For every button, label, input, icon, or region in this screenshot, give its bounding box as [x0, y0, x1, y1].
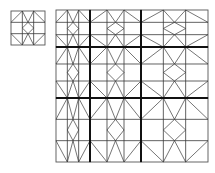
motif-segment: [124, 47, 141, 64]
motif-segment: [116, 35, 125, 47]
tile-frame: [141, 10, 208, 47]
scaled-tiling-grid: [56, 10, 208, 162]
motif-segment: [28, 28, 34, 34]
tile-frame: [56, 47, 90, 98]
motif-segment: [73, 29, 79, 35]
motif-segment: [163, 98, 174, 119]
motif-segment: [107, 81, 116, 98]
tile-frame: [90, 10, 141, 47]
motif-segment: [186, 10, 208, 22]
motif-segment: [175, 64, 186, 73]
motif-segment: [67, 29, 73, 35]
motif-segment: [11, 34, 22, 45]
motif-segment: [175, 130, 186, 141]
motif-segment: [67, 81, 73, 98]
motif-segment: [73, 10, 79, 22]
motif-segment: [11, 11, 22, 22]
motif-segment: [116, 64, 125, 73]
motif-segment: [141, 81, 163, 98]
motif-segment: [90, 35, 107, 47]
motif-segment: [73, 47, 79, 64]
motif-segment: [124, 98, 141, 119]
tiling-diagram: [0, 0, 215, 173]
motif-segment: [56, 141, 67, 162]
motif-segment: [163, 81, 174, 98]
motif-segment: [28, 11, 34, 22]
tile-frame: [141, 47, 208, 98]
motif-segment: [175, 98, 186, 119]
motif-segment: [107, 47, 116, 64]
motif-segment: [116, 47, 125, 64]
motif-segment: [141, 141, 163, 162]
motif-segment: [163, 29, 174, 35]
motif-segment: [22, 34, 28, 45]
motif-segment: [175, 119, 186, 130]
motif-segment: [34, 34, 45, 45]
motif-segment: [79, 10, 90, 22]
motif-segment: [124, 81, 141, 98]
motif-segment: [67, 47, 73, 64]
motif-segment: [116, 81, 125, 98]
motif-segment: [73, 81, 79, 98]
motif-segment: [163, 130, 174, 141]
motif-segment: [67, 35, 73, 47]
base-tile: [11, 11, 45, 45]
tile-frame: [11, 11, 45, 45]
motif-segment: [116, 130, 125, 141]
motif-segment: [163, 141, 174, 162]
tile-frame: [56, 98, 90, 162]
motif-segment: [90, 141, 107, 162]
motif-segment: [163, 119, 174, 130]
motif-segment: [163, 10, 174, 22]
motif-segment: [175, 29, 186, 35]
motif-segment: [163, 35, 174, 47]
motif-segment: [116, 29, 125, 35]
motif-segment: [116, 119, 125, 130]
tile-frame: [90, 98, 141, 162]
motif-segment: [175, 73, 186, 82]
motif-segment: [186, 98, 208, 119]
motif-segment: [107, 73, 116, 82]
motif-segment: [73, 98, 79, 119]
motif-segment: [163, 73, 174, 82]
tile-frame: [56, 10, 90, 47]
motif-segment: [73, 119, 79, 130]
motif-segment: [73, 130, 79, 141]
motif-segment: [79, 47, 90, 64]
motif-segment: [175, 81, 186, 98]
motif-segment: [67, 119, 73, 130]
motif-segment: [116, 98, 125, 119]
motif-segment: [73, 64, 79, 73]
motif-segment: [90, 47, 107, 64]
motif-segment: [56, 10, 67, 22]
motif-segment: [175, 10, 186, 22]
motif-segment: [107, 119, 116, 130]
motif-segment: [175, 141, 186, 162]
motif-segment: [141, 98, 163, 119]
motif-segment: [28, 22, 34, 28]
motif-segment: [186, 81, 208, 98]
motif-segment: [124, 141, 141, 162]
motif-segment: [107, 64, 116, 73]
motif-segment: [186, 141, 208, 162]
motif-segment: [107, 130, 116, 141]
motif-segment: [163, 64, 174, 73]
motif-segment: [73, 141, 79, 162]
motif-segment: [107, 10, 116, 22]
tile-frame: [141, 98, 208, 162]
motif-segment: [56, 98, 67, 119]
motif-segment: [22, 28, 28, 34]
motif-segment: [79, 141, 90, 162]
motif-segment: [67, 98, 73, 119]
motif-segment: [175, 22, 186, 28]
motif-segment: [116, 22, 125, 28]
motif-segment: [56, 47, 67, 64]
motif-segment: [79, 98, 90, 119]
motif-segment: [67, 22, 73, 28]
motif-segment: [90, 98, 107, 119]
motif-segment: [107, 22, 116, 28]
motif-segment: [56, 35, 67, 47]
motif-segment: [73, 22, 79, 28]
motif-segment: [124, 35, 141, 47]
motif-segment: [186, 47, 208, 64]
